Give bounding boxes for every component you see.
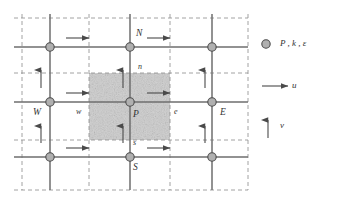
node-n	[126, 43, 134, 51]
legend-label-v: v	[280, 121, 284, 130]
legend-symbols	[262, 40, 288, 138]
face-label-e: e	[174, 108, 178, 116]
legend-label-u: u	[292, 81, 297, 90]
legend-label-scalars: P , k , ε	[280, 39, 306, 48]
node-se	[208, 153, 216, 161]
face-label-n: n	[138, 63, 142, 71]
node-label-E: E	[220, 108, 226, 118]
node-e	[208, 98, 216, 106]
face-label-s: s	[133, 139, 136, 147]
node-label-S: S	[133, 163, 138, 173]
node-label-P: P	[133, 110, 139, 120]
node-label-N: N	[136, 29, 142, 39]
legend-node-icon	[262, 40, 270, 48]
figure-root: N W P E S w e n s P , k , ε u v	[0, 0, 339, 204]
staggered-grid-diagram	[0, 0, 339, 204]
node-p	[126, 98, 134, 106]
node-sw	[46, 153, 54, 161]
node-label-W: W	[33, 108, 41, 118]
node-w	[46, 98, 54, 106]
face-label-w: w	[76, 108, 81, 116]
node-nw	[46, 43, 54, 51]
node-ne	[208, 43, 216, 51]
node-s	[126, 153, 134, 161]
